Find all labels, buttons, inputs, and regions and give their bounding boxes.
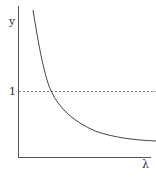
- x-axis-label: λ: [142, 158, 149, 171]
- y-axis-label: y: [8, 15, 16, 28]
- plot-canvas: y 1 λ: [0, 0, 156, 179]
- decreasing-curve: [33, 10, 156, 141]
- tick-label-one: 1: [9, 85, 16, 98]
